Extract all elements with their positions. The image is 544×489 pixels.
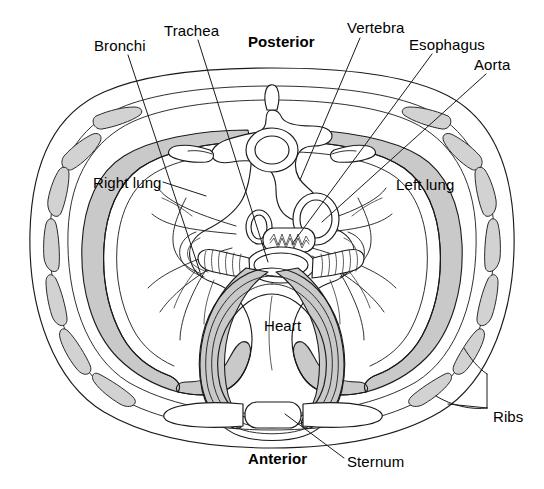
left-bronchial-branch: [352, 198, 382, 216]
label-sternum: Sternum: [347, 454, 404, 469]
label-trachea: Trachea: [164, 23, 219, 38]
sternum-body: [245, 402, 301, 428]
right-bronchial-branch: [158, 188, 236, 226]
transverse-process-left: [169, 145, 214, 162]
label-anterior: Anterior: [248, 451, 307, 466]
label-heart: Heart: [264, 318, 301, 333]
trachea-group: [198, 247, 364, 283]
ribs-bracket-lower-arm: [436, 396, 487, 409]
rib-cross-section: [409, 373, 452, 406]
label-posterior: Posterior: [248, 34, 315, 49]
rib-cross-section: [92, 373, 135, 406]
label-right-lung: Right lung: [93, 175, 162, 190]
vertebral-body-inner: [255, 136, 289, 164]
label-aorta: Aorta: [474, 57, 510, 72]
transverse-process-right: [331, 145, 376, 162]
rib-cross-section: [402, 107, 451, 129]
rib-cross-section: [48, 167, 69, 216]
rib-cross-section: [46, 275, 67, 326]
rib-cross-section: [453, 329, 484, 374]
right-bronchial-branch: [174, 270, 196, 308]
label-vertebra: Vertebra: [347, 20, 405, 35]
right-bronchial-branch: [152, 214, 236, 234]
label-esophagus: Esophagus: [409, 37, 485, 52]
spinous-process: [265, 85, 279, 110]
rib-cross-section: [60, 329, 91, 374]
left-main-bronchus-wall: [312, 249, 364, 278]
right-bronchial-branch: [162, 198, 192, 216]
sternum-group: [164, 402, 383, 428]
label-ribs: Ribs: [493, 409, 523, 424]
label-bronchi: Bronchi: [94, 38, 146, 53]
rib-cross-section: [93, 107, 142, 129]
leader-right-lung: [163, 182, 206, 196]
rib-cross-section: [62, 133, 101, 170]
rib-cross-section: [475, 167, 496, 216]
costal-cartilage-right: [303, 403, 382, 428]
rib-cross-section: [443, 133, 482, 170]
rib-cross-section: [477, 275, 498, 326]
rib-cross-section: [44, 219, 60, 272]
anatomy-diagram: [0, 0, 544, 489]
costal-cartilage-left: [164, 403, 243, 428]
label-left-lung: Left lung: [396, 177, 454, 192]
thorax-cross-section-figure: Bronchi Trachea Posterior Vertebra Esoph…: [0, 0, 544, 489]
left-bronchial-branch: [348, 270, 370, 308]
rib-cross-section: [485, 219, 501, 272]
